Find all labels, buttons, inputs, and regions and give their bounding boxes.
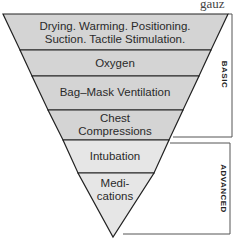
level-6-line2: cations bbox=[80, 190, 150, 203]
level-6-line1: Medi- bbox=[80, 177, 150, 190]
level-4-line2: Compressions bbox=[55, 125, 175, 138]
level-5-label: Intubation bbox=[70, 150, 160, 163]
level-3-label: Bag–Mask Ventilation bbox=[45, 86, 185, 99]
level-4-label: Chest Compressions bbox=[55, 112, 175, 138]
basic-group-label: BASIC bbox=[220, 55, 229, 95]
level-1-line1: Drying. Warming. Positioning. bbox=[20, 20, 210, 33]
level-4-line1: Chest bbox=[55, 112, 175, 125]
level-1-label: Drying. Warming. Positioning. Suction. T… bbox=[20, 20, 210, 46]
level-1-line2: Suction. Tactile Stimulation. bbox=[20, 33, 210, 46]
level-2-label: Oxygen bbox=[40, 57, 190, 70]
advanced-group-label: ADVANCED bbox=[219, 159, 228, 219]
level-6-label: Medi- cations bbox=[80, 177, 150, 203]
